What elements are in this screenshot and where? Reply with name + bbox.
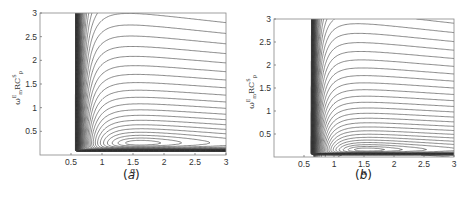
x-tick-label: 0.5: [298, 159, 310, 169]
panel-b: 0.511.522.530.511.522.53αωEmRCSp (b): [0, 0, 464, 198]
x-tick-label: 2: [392, 159, 397, 169]
y-tick-label: 2: [266, 60, 271, 70]
panel-caption-b: (b): [355, 168, 372, 182]
contour-lines: [311, 19, 454, 157]
y-tick-label: 3: [266, 14, 271, 24]
y-axis-label: ωEmRCSp: [245, 75, 258, 109]
y-tick-label: 0.5: [259, 129, 271, 139]
x-tick-label: 3: [452, 159, 457, 169]
y-tick-label: 2.5: [259, 37, 271, 47]
x-tick-label: 1: [332, 159, 337, 169]
x-tick-label: 2.5: [418, 159, 430, 169]
y-tick-label: 1.5: [259, 83, 271, 93]
contour-plot-b: 0.511.522.530.511.522.53αωEmRCSp: [0, 0, 464, 198]
y-tick-label: 1: [266, 106, 271, 116]
panel-letter-b: b: [360, 168, 368, 182]
